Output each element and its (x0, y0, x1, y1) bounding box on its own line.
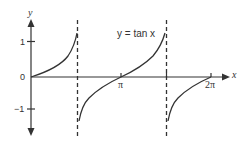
x-axis-arrow-icon (222, 74, 230, 81)
tan-branch-1 (31, 33, 77, 77)
x-axis-label: x (231, 69, 237, 80)
y-axis-down-arrow-icon (28, 128, 35, 136)
y-tick-label-0: 0 (20, 72, 25, 82)
y-tick-label-minus1: −1 (14, 104, 24, 114)
y-axis-up-arrow-icon (28, 19, 35, 27)
x-tick-label-2pi: 2π (205, 79, 215, 90)
x-tick-label-pi: π (118, 79, 123, 90)
tan-chart: y x 1 0 −1 π 2π y = tan x (0, 0, 240, 145)
curve-annotation: y = tan x (117, 28, 155, 39)
y-axis-label: y (27, 7, 33, 18)
y-tick-label-1: 1 (20, 37, 25, 47)
